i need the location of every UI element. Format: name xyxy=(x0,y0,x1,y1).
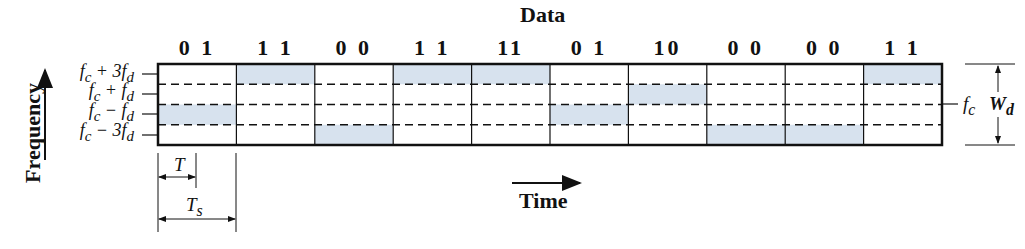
active-frequency-cell xyxy=(158,105,236,125)
active-frequency-cell xyxy=(785,125,863,145)
active-frequency-cell xyxy=(628,84,706,104)
active-frequency-cell xyxy=(393,64,471,84)
bandwidth-label: Wd xyxy=(989,93,1014,119)
bit-period-label: T xyxy=(174,154,185,176)
active-frequency-cell xyxy=(707,125,785,145)
center-frequency-label: fc xyxy=(963,93,975,119)
mfsk-grid xyxy=(0,0,1025,249)
period-dimensions xyxy=(158,153,236,232)
active-frequency-cell xyxy=(315,125,393,145)
active-frequency-cell xyxy=(472,64,550,84)
symbol-period-label: Ts xyxy=(186,194,203,220)
active-frequency-cell xyxy=(864,64,942,84)
active-frequency-cell xyxy=(550,105,628,125)
active-frequency-cell xyxy=(236,64,314,84)
time-axis-label: Time xyxy=(519,188,567,214)
